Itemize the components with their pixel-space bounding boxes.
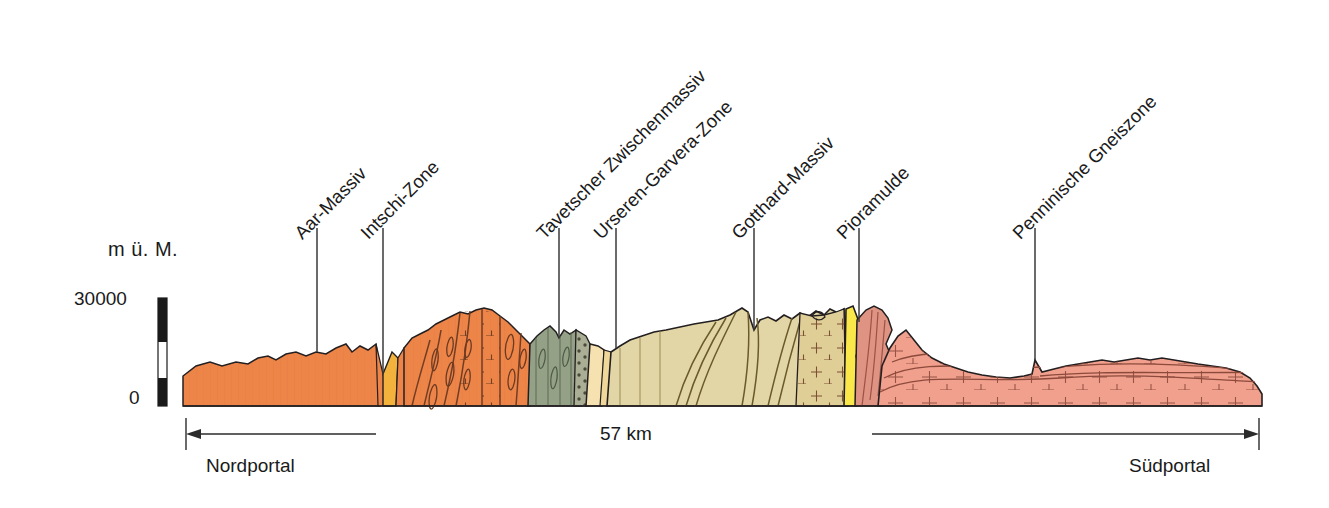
north-portal-label: Nordportal: [206, 455, 295, 477]
y-axis-tick-bottom: 0: [129, 387, 140, 409]
figure-canvas: m ü. M. 30000 0 Aar-Massiv Intschi-Zone …: [0, 0, 1329, 508]
cross-section-svg: [0, 0, 1329, 508]
unit-aar-massiv: [183, 344, 380, 406]
tunnel-length-label: 57 km: [600, 423, 652, 445]
south-portal-label: Südportal: [1129, 455, 1210, 477]
vertical-scale-bar: [158, 298, 167, 406]
y-axis-tick-top: 30000: [74, 288, 127, 310]
unit-gotthard-massiv: [607, 308, 848, 406]
unit-penninische-gneiszone: [855, 306, 1262, 406]
cross-section-body: [183, 306, 1262, 409]
unit-aar-granite-core: [404, 308, 530, 409]
dimension-arrows: [186, 418, 1259, 450]
y-axis-title: m ü. M.: [108, 238, 178, 261]
